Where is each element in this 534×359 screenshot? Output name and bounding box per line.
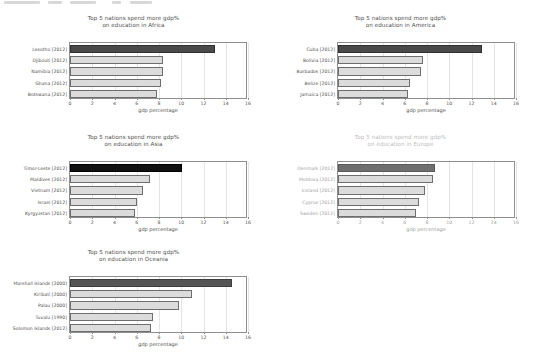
top-artifact-strip: [0, 0, 534, 6]
bar-america-3[interactable]: [338, 79, 410, 87]
chart-title-oceania: Top 5 nations spend more gdp% on educati…: [0, 249, 267, 263]
bar-oceania-3[interactable]: [70, 313, 153, 321]
y-axis-category-label: Timor-Leste [2012]: [23, 165, 67, 170]
x-axis-tick-label: 6: [135, 101, 138, 106]
bar-africa-3[interactable]: [70, 79, 161, 87]
gridline: [248, 43, 249, 98]
x-axis-tick-label: 14: [491, 220, 497, 225]
y-axis-category-label: Denmark [2012]: [297, 165, 335, 170]
bar-europe-0[interactable]: [338, 164, 435, 172]
y-axis-category-label: Palau [2000]: [38, 303, 67, 308]
y-axis-category-label: Iceland [2012]: [302, 188, 335, 193]
x-axis-tick-label: 4: [381, 220, 384, 225]
x-axis-tick-label: 12: [201, 220, 207, 225]
x-axis-tick-label: 8: [158, 220, 161, 225]
bar-asia-0[interactable]: [70, 164, 182, 172]
bar-row: Lesotho [2012]: [70, 45, 248, 53]
bar-row: Tuvalu [1990]: [70, 313, 248, 321]
y-axis-category-label: Ghana [2012]: [35, 80, 67, 85]
bar-row: Namibia [2012]: [70, 67, 248, 75]
x-axis-tick-label: 16: [513, 101, 519, 106]
bar-asia-1[interactable]: [70, 175, 150, 183]
bar-america-1[interactable]: [338, 56, 423, 64]
chart-panel-oceania: Top 5 nations spend more gdp% on educati…: [0, 244, 267, 359]
y-axis-category-label: Cuba [2012]: [306, 46, 335, 51]
y-axis-category-label: Cyprus [2012]: [302, 199, 335, 204]
bar-row: Kyrgyzstan [2012]: [70, 209, 248, 217]
gridline: [248, 277, 249, 332]
plot-area-america: 0246810121416Cuba [2012]Bolivia [2012]Ba…: [337, 42, 515, 99]
bar-oceania-2[interactable]: [70, 301, 179, 309]
y-axis-category-label: Jamaica [2012]: [300, 92, 335, 97]
bar-row: Botswana [2012]: [70, 90, 248, 98]
gridline: [248, 162, 249, 217]
bar-row: Maldives [2012]: [70, 175, 248, 183]
bar-america-0[interactable]: [338, 45, 482, 53]
x-axis-tick-label: 12: [201, 335, 207, 340]
x-axis-label-oceania: gdp percentage: [70, 341, 246, 347]
bar-row: Iceland [2012]: [338, 186, 516, 194]
x-axis-tick-label: 2: [359, 101, 362, 106]
x-axis-label-europe: gdp percentage: [338, 226, 514, 232]
bar-oceania-1[interactable]: [70, 290, 192, 298]
bar-europe-1[interactable]: [338, 175, 433, 183]
bar-asia-2[interactable]: [70, 186, 143, 194]
bar-america-4[interactable]: [338, 90, 408, 98]
y-axis-category-label: Barbados [2012]: [297, 69, 335, 74]
x-axis-tick-label: 14: [491, 101, 497, 106]
y-axis-category-label: Solomon Islands [2012]: [13, 326, 67, 331]
x-axis-tick-label: 12: [201, 101, 207, 106]
x-axis-tick-label: 10: [178, 101, 184, 106]
x-axis-tick-label: 0: [69, 101, 72, 106]
y-axis-category-label: Tuvalu [1990]: [36, 314, 67, 319]
y-axis-category-label: Djibouti [2012]: [32, 58, 67, 63]
y-axis-category-label: Moldova [2012]: [299, 177, 335, 182]
chart-title-america: Top 5 nations spend more gdp% on educati…: [267, 15, 534, 29]
plot-area-africa: 0246810121416Lesotho [2012]Djibouti [201…: [69, 42, 247, 99]
y-axis-category-label: Lesotho [2012]: [32, 46, 67, 51]
y-axis-category-label: Marshall Islands [2000]: [13, 280, 67, 285]
y-axis-category-label: Israel [2012]: [38, 199, 67, 204]
plot-area-oceania: 0246810121416Marshall Islands [2000]Kiri…: [69, 276, 247, 333]
bar-europe-2[interactable]: [338, 186, 425, 194]
y-axis-category-label: Sweden [2012]: [300, 211, 335, 216]
x-axis-tick-label: 14: [223, 101, 229, 106]
chart-panel-america: Top 5 nations spend more gdp% on educati…: [267, 10, 534, 125]
bar-africa-2[interactable]: [70, 67, 163, 75]
x-axis-tick-label: 10: [446, 220, 452, 225]
x-axis-tick-label: 2: [91, 335, 94, 340]
x-axis-label-asia: gdp percentage: [70, 226, 246, 232]
bar-africa-0[interactable]: [70, 45, 215, 53]
x-axis-tick-label: 4: [381, 101, 384, 106]
bar-oceania-4[interactable]: [70, 324, 151, 332]
x-axis-tick-label: 8: [426, 101, 429, 106]
x-axis-tick-label: 0: [69, 220, 72, 225]
x-axis-tick-label: 0: [337, 101, 340, 106]
x-axis-tick-label: 6: [135, 335, 138, 340]
chart-panel-asia: Top 5 nations spend more gdp% on educati…: [0, 129, 267, 244]
x-axis-tick-label: 0: [337, 220, 340, 225]
x-axis-tick-label: 0: [69, 335, 72, 340]
bar-europe-3[interactable]: [338, 198, 419, 206]
chart-title-africa: Top 5 nations spend more gdp% on educati…: [0, 15, 267, 29]
x-axis-tick-label: 4: [113, 335, 116, 340]
bar-oceania-0[interactable]: [70, 279, 232, 287]
x-axis-tick-label: 10: [178, 220, 184, 225]
bar-europe-4[interactable]: [338, 209, 416, 217]
x-axis-tick-label: 12: [469, 101, 475, 106]
bar-africa-4[interactable]: [70, 90, 157, 98]
bar-row: Palau [2000]: [70, 301, 248, 309]
x-axis-tick-label: 2: [91, 220, 94, 225]
x-axis-tick-label: 6: [135, 220, 138, 225]
x-axis-tick-label: 6: [403, 220, 406, 225]
x-axis-tick-label: 8: [158, 101, 161, 106]
y-axis-category-label: Botswana [2012]: [28, 92, 67, 97]
bar-america-2[interactable]: [338, 67, 421, 75]
bar-row: Ghana [2012]: [70, 79, 248, 87]
bar-row: Barbados [2012]: [338, 67, 516, 75]
bar-row: Belize [2012]: [338, 79, 516, 87]
bar-asia-3[interactable]: [70, 198, 137, 206]
x-axis-tick-label: 16: [513, 220, 519, 225]
bar-africa-1[interactable]: [70, 56, 163, 64]
bar-asia-4[interactable]: [70, 209, 135, 217]
